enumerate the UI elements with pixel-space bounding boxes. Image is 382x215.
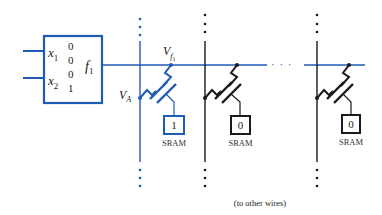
- switch-column-3: 0 SRAM: [315, 14, 363, 188]
- transistor-gate: [157, 84, 176, 103]
- switch-column-2: 0 SRAM: [203, 14, 253, 188]
- label-vf1: Vf1: [163, 44, 176, 62]
- to-other-wires-caption: (to other wires): [234, 198, 287, 208]
- truth-value-1: 0: [68, 54, 74, 66]
- sram-value-1: 1: [171, 119, 177, 131]
- sram-label-1: SRAM: [162, 138, 187, 148]
- truth-value-0: 0: [68, 40, 74, 52]
- sram-label-2: SRAM: [228, 138, 253, 148]
- sram-value-2: 0: [238, 119, 244, 131]
- sram-label-3: SRAM: [339, 137, 364, 147]
- input-label-x1: x1: [47, 45, 58, 63]
- wire-ellipsis: · · ·: [271, 58, 293, 70]
- label-va: VA: [119, 88, 131, 104]
- truth-value-2: 0: [68, 68, 74, 80]
- output-label-f1: f1: [85, 59, 93, 76]
- gate-lead: [166, 94, 174, 116]
- truth-value-3: 1: [68, 82, 74, 94]
- input-label-x2: x2: [47, 73, 58, 91]
- sram-value-3: 0: [348, 118, 354, 130]
- fpga-switch-diagram: x1 x2 0 0 0 1 f1 · · · 1 SRAM Vf1 VA: [0, 0, 382, 215]
